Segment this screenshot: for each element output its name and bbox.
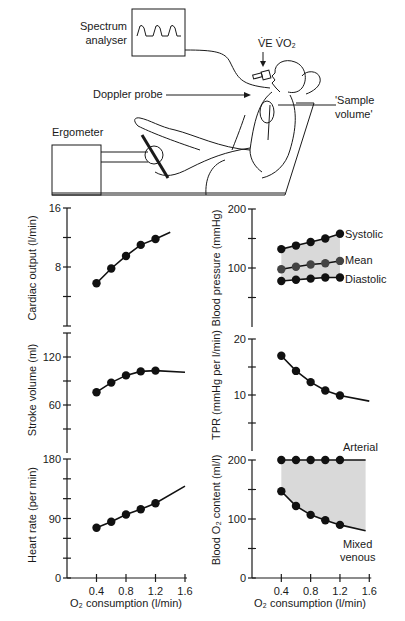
y-tick-label: 120 xyxy=(43,351,61,363)
y-tick-label: 180 xyxy=(43,453,61,465)
data-point xyxy=(336,391,344,399)
co-ylabel: Cardiac output (l/min) xyxy=(26,215,38,320)
data-point xyxy=(306,260,314,268)
data-point xyxy=(137,241,145,249)
data-point xyxy=(321,259,329,267)
legend-mean: Mean xyxy=(345,254,373,266)
spectrum-label-2: analyser xyxy=(85,34,127,46)
ergometer-label: Ergometer xyxy=(52,126,104,138)
y-tick-label: 0 xyxy=(55,572,61,584)
data-point xyxy=(107,518,115,526)
y-tick-label: 0 xyxy=(240,572,246,584)
y-tick-label: 10 xyxy=(234,389,246,401)
data-point xyxy=(137,367,145,375)
data-point xyxy=(292,502,300,510)
tpr-chart: 1020 xyxy=(234,333,370,451)
data-point xyxy=(277,487,285,495)
legend-systolic: Systolic xyxy=(345,228,383,240)
data-point xyxy=(151,235,159,243)
chair xyxy=(52,103,314,195)
y-tick-label: 200 xyxy=(228,203,246,215)
cardiac-output-chart: 816 xyxy=(49,202,171,326)
data-point xyxy=(336,230,344,238)
data-point xyxy=(277,352,285,360)
spectrum-label-1: Spectrum xyxy=(80,20,127,32)
data-point xyxy=(107,264,115,272)
sv-ylabel: Stroke volume (ml) xyxy=(26,344,38,436)
x-tick-label: 0.4 xyxy=(89,585,104,597)
x-tick-label: 1.2 xyxy=(148,585,163,597)
stroke-volume-chart: 60120 xyxy=(43,333,185,453)
data-point xyxy=(151,366,159,374)
blood-o2-chart: 01002000.40.81.21.6 xyxy=(228,454,377,597)
arrow-head-icon xyxy=(244,92,251,98)
figure: Spectrum analyser V̇E V̇O₂ Doppler probe… xyxy=(0,0,405,621)
y-tick-label: 60 xyxy=(49,399,61,411)
bp-ylabel: Blood pressure (mmHg) xyxy=(210,210,222,327)
x-tick-label: 1.2 xyxy=(332,585,347,597)
doppler-waveform-icon xyxy=(137,25,181,36)
data-point xyxy=(277,277,285,285)
arrow-head-icon xyxy=(260,61,266,67)
apparatus-illustration: Spectrum analyser V̇E V̇O₂ Doppler probe… xyxy=(52,9,374,195)
data-point xyxy=(92,524,100,532)
data-point xyxy=(321,516,329,524)
sample-volume-label-2: volume' xyxy=(335,108,373,120)
data-point xyxy=(306,274,314,282)
data-point xyxy=(292,263,300,271)
data-point xyxy=(306,456,314,464)
y-tick-label: 100 xyxy=(228,513,246,525)
data-point xyxy=(122,252,130,260)
data-point xyxy=(306,511,314,519)
data-point xyxy=(292,241,300,249)
ventilation-label: V̇E V̇O₂ xyxy=(258,37,296,49)
blood-pressure-chart: 100200 xyxy=(228,203,345,327)
o2-ylabel: Blood O₂ content (ml/l) xyxy=(210,455,222,566)
data-point xyxy=(277,265,285,273)
data-point xyxy=(292,456,300,464)
data-point xyxy=(306,238,314,246)
data-point xyxy=(277,245,285,253)
legend-mixed-2: venous xyxy=(340,551,376,563)
y-tick-label: 8 xyxy=(55,261,61,273)
legend-mixed-1: Mixed xyxy=(343,538,372,550)
data-point xyxy=(336,273,344,281)
data-point xyxy=(151,499,159,507)
spectrum-analyser-box xyxy=(132,9,185,56)
y-tick-label: 20 xyxy=(234,333,246,345)
heart-rate-chart: 0901800.40.81.21.6 xyxy=(43,453,193,597)
data-point xyxy=(321,273,329,281)
x-axis-label-left: O₂ consumption (l/min) xyxy=(70,597,182,609)
x-tick-label: 1.6 xyxy=(362,585,377,597)
probe-cable xyxy=(185,50,270,88)
data-point xyxy=(336,521,344,529)
x-tick-label: 0.8 xyxy=(118,585,133,597)
data-point xyxy=(306,378,314,386)
data-point xyxy=(336,257,344,265)
legend-arterial: Arterial xyxy=(343,441,378,453)
data-point xyxy=(122,371,130,379)
y-tick-label: 90 xyxy=(49,513,61,525)
y-tick-label: 100 xyxy=(228,262,246,274)
crank-arm xyxy=(142,135,168,178)
tpr-ylabel: TPR (mmHg per l/min) xyxy=(210,330,222,440)
data-point xyxy=(292,367,300,375)
data-point xyxy=(92,279,100,287)
subject-figure xyxy=(135,61,321,178)
data-point xyxy=(137,505,145,513)
data-point xyxy=(321,456,329,464)
data-point xyxy=(336,456,344,464)
data-point xyxy=(321,234,329,242)
x-tick-label: 1.6 xyxy=(177,585,192,597)
sample-volume-label-1: 'Sample xyxy=(335,94,374,106)
data-point xyxy=(107,378,115,386)
data-point xyxy=(292,276,300,284)
ergometer-box xyxy=(52,145,101,195)
data-point xyxy=(321,386,329,394)
x-axis-label-right: O₂ consumption (l/min) xyxy=(254,597,366,609)
data-point xyxy=(92,388,100,396)
legend-diastolic: Diastolic xyxy=(345,273,387,285)
doppler-probe-label: Doppler probe xyxy=(93,88,163,100)
y-tick-label: 200 xyxy=(228,454,246,466)
hr-ylabel: Heart rate (per min) xyxy=(26,467,38,563)
